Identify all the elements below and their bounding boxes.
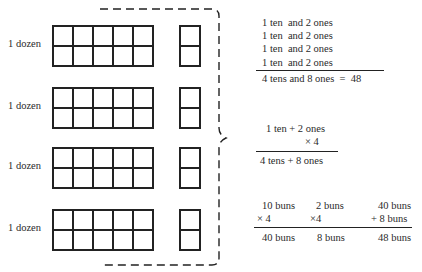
tens-grid — [52, 209, 154, 251]
addition-result: 4 tens and 8 ones = 48 — [262, 72, 361, 85]
dozen-label: 1 dozen — [8, 160, 41, 171]
product: 4 tens + 8 ones — [260, 154, 323, 167]
dozen-label: 1 dozen — [8, 38, 41, 49]
buns-col1-top: 10 buns — [262, 199, 295, 212]
buns-col2-result: 8 buns — [317, 231, 345, 244]
buns-col2-op: ×4 — [310, 212, 321, 225]
multiplicand: 1 ten + 2 ones — [266, 122, 325, 135]
ones-grid — [179, 25, 201, 67]
addition-line: 1 ten and 2 ones — [262, 42, 333, 55]
buns-col3-top: 40 buns — [378, 199, 411, 212]
tens-grid — [52, 87, 154, 129]
buns-col1-op: × 4 — [257, 212, 271, 225]
buns-col1-result: 40 buns — [262, 231, 295, 244]
multiplier: × 4 — [305, 135, 319, 148]
dozen-label: 1 dozen — [8, 100, 41, 111]
ones-grid — [179, 147, 201, 189]
sum-rule — [256, 70, 384, 71]
addition-line: 1 ten and 2 ones — [262, 56, 333, 69]
buns-col3-op: + 8 buns — [371, 212, 407, 225]
dozen-label: 1 dozen — [8, 222, 41, 233]
tens-grid — [52, 147, 154, 189]
product-rule — [256, 151, 338, 152]
ones-grid — [179, 209, 201, 251]
buns-rule — [254, 227, 412, 228]
buns-col3-result: 48 buns — [378, 231, 411, 244]
addition-line: 1 ten and 2 ones — [262, 29, 333, 42]
addition-line: 1 ten and 2 ones — [262, 16, 333, 29]
ones-grid — [179, 87, 201, 129]
tens-grid — [52, 25, 154, 67]
buns-col2-top: 2 buns — [316, 199, 344, 212]
